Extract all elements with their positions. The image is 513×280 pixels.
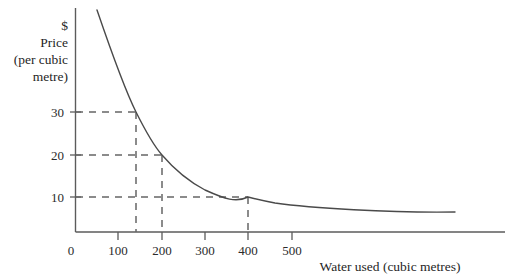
y-axis-label-line-3: (per cubic: [14, 52, 68, 67]
demand-curve-chart: 30 20 10 0 100 200 300 400 500 $ Price (…: [0, 0, 513, 280]
y-axis-label-line-4: metre): [33, 69, 68, 84]
x-tick-label-400: 400: [238, 243, 258, 258]
y-tick-label-10: 10: [51, 190, 64, 205]
x-tick-label-0: 0: [68, 243, 75, 258]
chart-figure: 30 20 10 0 100 200 300 400 500 $ Price (…: [0, 0, 513, 280]
y-axis-label-line-1: $: [61, 18, 68, 33]
chart-background: [0, 0, 513, 280]
x-tick-label-100: 100: [108, 243, 128, 258]
x-tick-label-300: 300: [195, 243, 215, 258]
x-tick-label-500: 500: [282, 243, 302, 258]
x-tick-label-200: 200: [152, 243, 172, 258]
y-axis-label-line-2: Price: [40, 35, 68, 50]
y-tick-label-20: 20: [51, 148, 64, 163]
x-axis-label: Water used (cubic metres): [320, 259, 461, 274]
y-tick-label-30: 30: [51, 105, 64, 120]
